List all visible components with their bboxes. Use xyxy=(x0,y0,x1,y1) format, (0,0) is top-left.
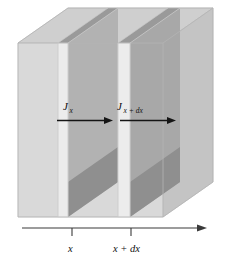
flux-diagram-figure: J x J x + dx x x + dx xyxy=(0,0,233,260)
flux-label-jx-subscript: x xyxy=(69,106,74,115)
x-axis-tick-label-xdx: x + dx xyxy=(112,243,140,254)
x-axis-arrowhead xyxy=(197,225,207,232)
x-axis-tick-label-x: x xyxy=(67,243,73,254)
flux-label-jxdx-subscript: x + dx xyxy=(123,106,144,115)
diagram-canvas: J x J x + dx x x + dx xyxy=(0,0,233,260)
x-axis-group: x x + dx xyxy=(22,225,207,255)
